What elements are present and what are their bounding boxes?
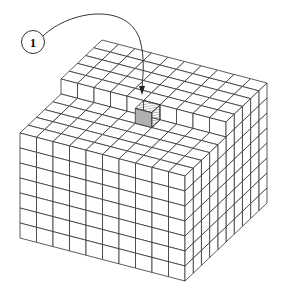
callout-label: 1 — [30, 36, 36, 50]
cube-block — [20, 40, 267, 281]
cube-grid-diagram: 1 — [0, 0, 286, 294]
highlighted-cube — [135, 101, 160, 128]
